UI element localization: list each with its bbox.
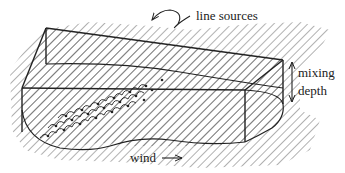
line-sources-label: line sources: [196, 8, 258, 23]
wind-label: wind: [130, 150, 157, 165]
mixing-label: mixing: [298, 65, 335, 80]
mixing-box-diagram: line sources mixing depth wind: [0, 0, 345, 173]
depth-label: depth: [298, 83, 327, 98]
line-sources-annotation: line sources: [152, 8, 258, 28]
curly-arrow-icon: [152, 10, 190, 28]
